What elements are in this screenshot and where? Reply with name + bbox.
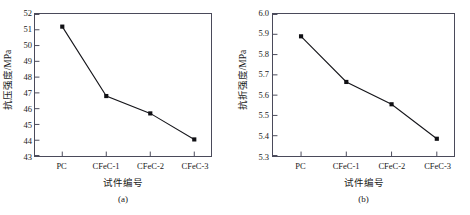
data-point-marker — [435, 137, 439, 141]
y-tick-label: 43 — [24, 153, 33, 162]
x-tick-label: CFeC-1 — [333, 160, 360, 172]
data-point-marker — [389, 102, 393, 106]
y-tick-label: 52 — [24, 9, 33, 18]
panel-caption-b: (b) — [272, 193, 455, 205]
x-tick-label: CFeC-3 — [424, 160, 451, 172]
x-axis-tick-labels-a: PCCFeC-1CFeC-2CFeC-3 — [34, 160, 212, 172]
x-tick-label: PC — [56, 160, 66, 172]
y-tick-label: 46 — [24, 105, 33, 114]
x-tick-label: PC — [295, 160, 305, 172]
y-tick-label: 5.3 — [258, 153, 269, 162]
data-point-marker — [299, 34, 303, 38]
x-axis-title-b: 试件编号 — [272, 177, 455, 189]
data-point-marker — [60, 25, 64, 29]
y-tick-label: 5.6 — [258, 91, 269, 100]
y-tick-label: 44 — [24, 137, 33, 146]
data-point-marker — [104, 94, 108, 98]
data-point-marker — [148, 111, 152, 115]
y-tick-label: 5.8 — [258, 50, 269, 59]
y-axis-tick-labels-a: 43444546474849505152 — [12, 0, 32, 215]
data-series-line — [301, 36, 437, 138]
data-point-marker — [344, 80, 348, 84]
x-axis-tick-labels-b: PCCFeC-1CFeC-2CFeC-3 — [272, 160, 455, 172]
chart-panel-b: 抗折强度/MPa 5.35.45.55.65.75.85.96.0 PCCFeC… — [235, 0, 470, 215]
plot-area-b — [272, 13, 455, 157]
data-series-line — [62, 27, 194, 140]
y-tick-label: 5.5 — [258, 111, 269, 120]
y-tick-label: 5.9 — [258, 29, 269, 38]
y-tick-label: 45 — [24, 121, 33, 130]
y-tick-label: 5.7 — [258, 70, 269, 79]
data-point-marker — [192, 137, 196, 141]
x-tick-label: CFeC-2 — [378, 160, 405, 172]
y-tick-label: 50 — [24, 41, 33, 50]
plot-area-a — [34, 13, 212, 157]
x-tick-label: CFeC-3 — [182, 160, 209, 172]
x-tick-label: CFeC-1 — [93, 160, 120, 172]
panel-caption-a: (a) — [34, 193, 212, 205]
figure-container: 抗压强度/MPa 43444546474849505152 PCCFeC-1CF… — [0, 0, 470, 215]
plot-svg-b — [273, 14, 454, 156]
y-tick-label: 6.0 — [258, 9, 269, 18]
y-tick-label: 51 — [24, 25, 33, 34]
y-tick-label: 47 — [24, 89, 33, 98]
y-tick-label: 5.4 — [258, 132, 269, 141]
y-tick-label: 49 — [24, 57, 33, 66]
y-axis-tick-labels-b: 5.35.45.55.65.75.85.96.0 — [247, 0, 269, 215]
plot-svg-a — [35, 14, 211, 156]
x-tick-label: CFeC-2 — [137, 160, 164, 172]
chart-panel-a: 抗压强度/MPa 43444546474849505152 PCCFeC-1CF… — [0, 0, 235, 215]
y-tick-label: 48 — [24, 73, 33, 82]
x-axis-title-a: 试件编号 — [34, 177, 212, 189]
